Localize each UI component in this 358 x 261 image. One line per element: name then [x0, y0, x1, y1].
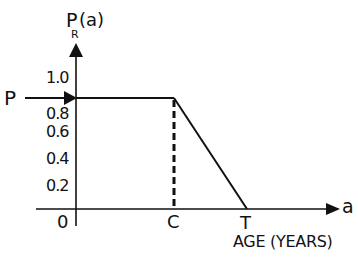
- x-axis-symbol: a: [342, 197, 354, 216]
- x-mark-c: C: [167, 213, 180, 231]
- p-level-arrowhead-icon: [64, 91, 77, 105]
- x-axis-label: AGE (YEARS): [233, 234, 333, 250]
- y-tick-0-2: 0.2: [46, 178, 68, 194]
- y-axis-label-arg: (a): [79, 11, 104, 29]
- y-tick-0-4: 0.4: [46, 151, 68, 167]
- x-axis-arrow-icon: [326, 203, 340, 215]
- y-tick-0-8: 0.8: [46, 106, 68, 122]
- y-tick-1-0: 1.0: [46, 70, 68, 86]
- y-axis-label-subscript: R: [71, 29, 79, 40]
- y-tick-0-6: 0.6: [46, 124, 68, 140]
- p-level-label: P: [4, 88, 16, 108]
- y-axis-arrow-icon: [69, 43, 83, 57]
- decline-line: [174, 98, 247, 209]
- x-mark-t: T: [240, 214, 251, 232]
- origin-label: 0: [57, 213, 68, 231]
